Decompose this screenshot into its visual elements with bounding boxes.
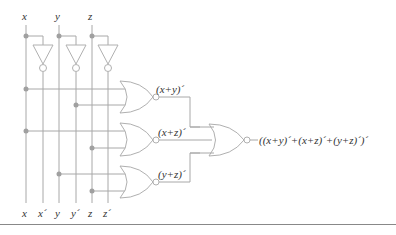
rail-label-z-prime: z´ [102,207,111,219]
rail-label-z: z [87,207,93,219]
output-label: ((x+y)´+(x+z)´+(y+z)´)´ [259,134,368,147]
inverter-y [57,34,87,72]
rail-label-x: x [21,207,27,219]
inverter-x [24,34,54,72]
nor1-label: (x+y)´ [156,83,185,96]
input-label-x: x [21,10,27,22]
nor2-label: (x+z)´ [158,126,186,139]
rail-label-x-prime: x´ [37,207,47,219]
input-label-z: z [87,10,93,22]
nor3-label: (y+z)´ [158,168,186,181]
rail-label-y-prime: y´ [70,207,80,219]
bottom-divider [0,224,396,225]
inverter-z [90,34,119,72]
input-label-y: y [54,10,60,22]
logic-circuit-diagram: x y z (x+y)´ [0,0,396,235]
rail-label-y: y [54,207,60,219]
